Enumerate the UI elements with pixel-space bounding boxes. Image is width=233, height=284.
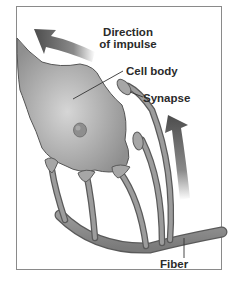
label-direction-line1: Direction <box>88 26 168 38</box>
label-fiber: Fiber <box>160 258 188 270</box>
label-synapse: Synapse <box>143 92 190 104</box>
impulse-arrow-top-icon <box>34 29 95 62</box>
cell-body <box>17 38 129 172</box>
nucleus <box>74 123 87 137</box>
label-direction-of-impulse: Direction of impulse <box>88 26 168 50</box>
label-cell-body: Cell body <box>126 65 178 77</box>
label-direction-line2: of impulse <box>88 38 168 50</box>
